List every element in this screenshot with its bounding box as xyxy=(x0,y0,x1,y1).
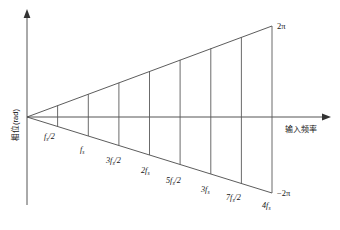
tick-sub: s xyxy=(268,205,270,211)
tick-label-fs-half: fs/2 xyxy=(44,132,55,142)
tick-label-fs: fs xyxy=(80,145,84,155)
tick-sub: s xyxy=(207,189,209,195)
y-axis-title: 相位(rad) xyxy=(10,108,20,141)
tick-sub: s xyxy=(147,170,149,176)
tick-label-3fs-half: 3fs/2 xyxy=(105,156,121,166)
tick-label-4fs: 4fs xyxy=(262,201,271,211)
phase-label-upper: 2π xyxy=(277,21,286,31)
phase-label-lower: −2π xyxy=(277,188,291,198)
tick-tail: /2 xyxy=(234,193,241,202)
tick-label-3fs: 3fs xyxy=(200,185,210,195)
tick-label-2fs: 2fs xyxy=(141,166,150,176)
tick-tail: /2 xyxy=(47,132,54,141)
tick-label-7fs-half: 7fs/2 xyxy=(226,193,241,203)
y-axis-arrow-icon xyxy=(24,9,31,18)
tick-tail: /2 xyxy=(174,176,181,185)
figure-container: 2π −2π fs/2 fs 3fs/2 2fs 5fs/2 3fs xyxy=(0,0,340,230)
x-axis-title: 输入频率 xyxy=(285,124,317,134)
tick-sub: s xyxy=(82,149,84,155)
phase-frequency-plot: 2π −2π fs/2 fs 3fs/2 2fs 5fs/2 3fs xyxy=(0,0,340,230)
x-axis-arrow-icon xyxy=(322,114,331,121)
frequency-tick-labels: fs/2 fs 3fs/2 2fs 5fs/2 3fs 7fs/2 4fs xyxy=(44,132,271,211)
tick-label-5fs-half: 5fs/2 xyxy=(166,176,181,186)
tick-tail: /2 xyxy=(114,156,121,165)
